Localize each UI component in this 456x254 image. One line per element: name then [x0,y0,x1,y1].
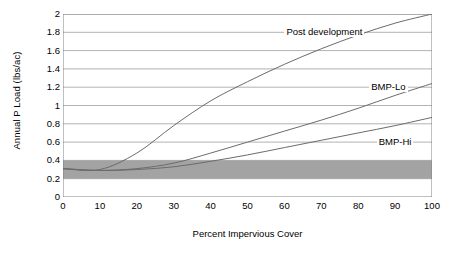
y-axis-tick-label: 0 [32,192,60,202]
y-axis-tick-label: 1 [32,101,60,111]
y-axis-tick-label: 1.4 [32,64,60,74]
y-axis-tick-label: 1.6 [32,46,60,56]
x-axis-tick-label: 70 [316,201,327,211]
x-axis-tick-label: 100 [424,201,440,211]
series-label-bmp-lo: BMP-Lo [369,82,407,92]
x-axis-tick-label: 40 [205,201,216,211]
y-axis-tick-label: 0.2 [32,174,60,184]
y-axis-tick-label: 1.8 [32,27,60,37]
x-axis-tick-label: 50 [242,201,253,211]
y-axis-tick-labels: 00.20.40.60.811.21.41.61.82 [30,0,60,254]
x-axis-tick-label: 60 [279,201,290,211]
x-axis-tick-label: 10 [95,201,106,211]
series-label-bmp-hi: BMP-Hi [377,137,414,147]
y-axis-tick-label: 2 [32,9,60,19]
x-axis-tick-label: 0 [60,201,65,211]
x-axis-tick-label: 30 [168,201,179,211]
y-axis-tick-label: 0.4 [32,155,60,165]
x-axis-tick-label: 90 [390,201,401,211]
chart-figure: Annual P Load (lbs/ac) 00.20.40.60.811.2… [0,0,456,254]
x-axis-title: Percent Impervious Cover [63,228,432,239]
y-axis-tick-label: 0.6 [32,137,60,147]
x-axis-tick-labels: 0102030405060708090100 [63,0,432,254]
x-axis-tick-label: 20 [132,201,143,211]
x-axis-tick-label: 80 [353,201,364,211]
y-axis-title: Annual P Load (lbs/ac) [6,0,26,200]
series-label-post-development: Post development [284,27,364,37]
y-axis-tick-label: 1.2 [32,82,60,92]
y-axis-tick-label: 0.8 [32,119,60,129]
